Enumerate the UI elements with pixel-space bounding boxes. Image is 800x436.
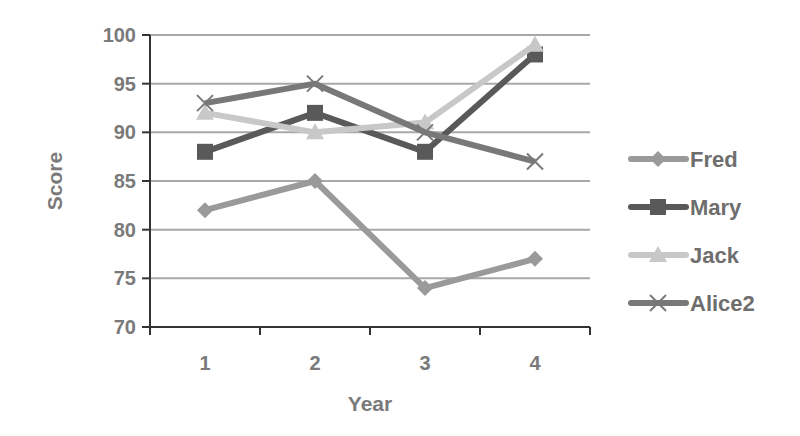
- y-tick-label: 90: [114, 121, 136, 143]
- legend-item-fred: Fred: [631, 147, 738, 172]
- y-axis-label: Score: [43, 152, 66, 210]
- line-chart: 707580859095100 1234 Score Year FredMary…: [0, 0, 800, 436]
- legend-item-jack: Jack: [631, 243, 740, 268]
- y-tick-label: 95: [114, 73, 136, 95]
- x-axis-label: Year: [348, 392, 392, 415]
- square-marker-icon: [307, 105, 323, 121]
- x-axis-ticks: 1234: [199, 352, 541, 374]
- diamond-marker-icon: [650, 151, 666, 167]
- series-jack: [196, 36, 544, 140]
- series-line: [205, 54, 535, 151]
- y-axis-ticks: 707580859095100: [103, 24, 136, 338]
- y-tick-label: 80: [114, 219, 136, 241]
- x-tick-label: 2: [309, 352, 320, 374]
- legend-label: Fred: [690, 147, 738, 172]
- square-marker-icon: [197, 144, 213, 160]
- triangle-marker-icon: [526, 36, 544, 52]
- series-mary: [197, 46, 543, 159]
- x-tick-label: 4: [529, 352, 541, 374]
- legend-label: Mary: [690, 195, 742, 220]
- x-tick-label: 3: [419, 352, 430, 374]
- series-line: [205, 181, 535, 288]
- legend: FredMaryJackAlice2: [631, 147, 755, 316]
- diamond-marker-icon: [197, 202, 213, 218]
- square-marker-icon: [417, 144, 433, 160]
- legend-item-mary: Mary: [631, 195, 742, 220]
- diamond-marker-icon: [527, 251, 543, 267]
- axes: [142, 35, 590, 335]
- y-tick-label: 85: [114, 170, 136, 192]
- y-tick-label: 75: [114, 267, 136, 289]
- y-tick-label: 70: [114, 316, 136, 338]
- x-tick-label: 1: [199, 352, 210, 374]
- data-series: [196, 36, 544, 296]
- legend-label: Jack: [690, 243, 740, 268]
- legend-item-alice2: Alice2: [631, 291, 755, 316]
- y-tick-label: 100: [103, 24, 136, 46]
- legend-label: Alice2: [690, 291, 755, 316]
- series-line: [205, 45, 535, 133]
- square-marker-icon: [650, 199, 666, 215]
